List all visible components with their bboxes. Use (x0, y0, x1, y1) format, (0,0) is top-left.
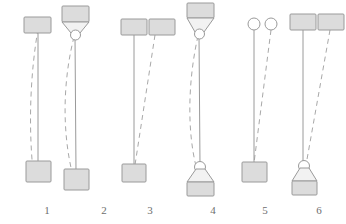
panel-2-top-pivot (71, 30, 81, 40)
panel-1-bottom-mass (26, 161, 51, 182)
panel-1-top-mass (24, 17, 51, 33)
panel-5-top-pivot-left (248, 18, 260, 30)
panel-2-dashed-line (65, 37, 74, 172)
panel-6-bottom-mass (292, 181, 317, 195)
panel-2-bottom-mass (64, 169, 89, 190)
panel-6-top-mass-left (290, 14, 316, 30)
panel-6-bottom-funnel (292, 168, 317, 181)
panel-6-dashed-line (306, 30, 330, 165)
panel-4-label: 4 (210, 204, 216, 216)
panel-2: 2 (62, 6, 107, 216)
panel-4-bottom-mass (187, 182, 214, 196)
panel-4-dashed-line (190, 36, 198, 166)
panel-3-dashed-line (135, 35, 155, 165)
panel-3: 3 (121, 19, 175, 216)
panel-3-top-mass-left (121, 19, 147, 35)
pendulum-diagram: 1 2 3 (0, 0, 346, 224)
panel-1-dashed-line (31, 29, 38, 171)
panel-3-label: 3 (147, 204, 153, 216)
panel-4-bottom-funnel (187, 169, 214, 182)
panel-3-bottom-mass (122, 164, 146, 182)
panel-6-label: 6 (316, 204, 322, 216)
panel-5-top-pivot-right (265, 18, 277, 30)
panel-4: 4 (187, 3, 216, 216)
panel-4-solid-line (199, 35, 200, 166)
panel-4-top-mass (187, 3, 214, 18)
panel-2-label: 2 (101, 204, 107, 216)
panel-2-solid-line (75, 36, 76, 172)
panel-6-top-mass-right (318, 14, 344, 30)
figure-container: 1 2 3 (0, 0, 346, 224)
panel-2-top-mass (62, 6, 89, 22)
panel-5: 5 (242, 18, 277, 216)
panel-4-top-pivot (195, 29, 205, 39)
panel-1: 1 (24, 17, 51, 216)
panel-6: 6 (290, 14, 344, 216)
panel-5-bottom-mass (242, 162, 267, 182)
panel-1-label: 1 (44, 204, 50, 216)
panel-5-label: 5 (262, 204, 268, 216)
panel-3-top-mass-right (149, 19, 175, 35)
panel-5-dashed-line (254, 30, 271, 163)
